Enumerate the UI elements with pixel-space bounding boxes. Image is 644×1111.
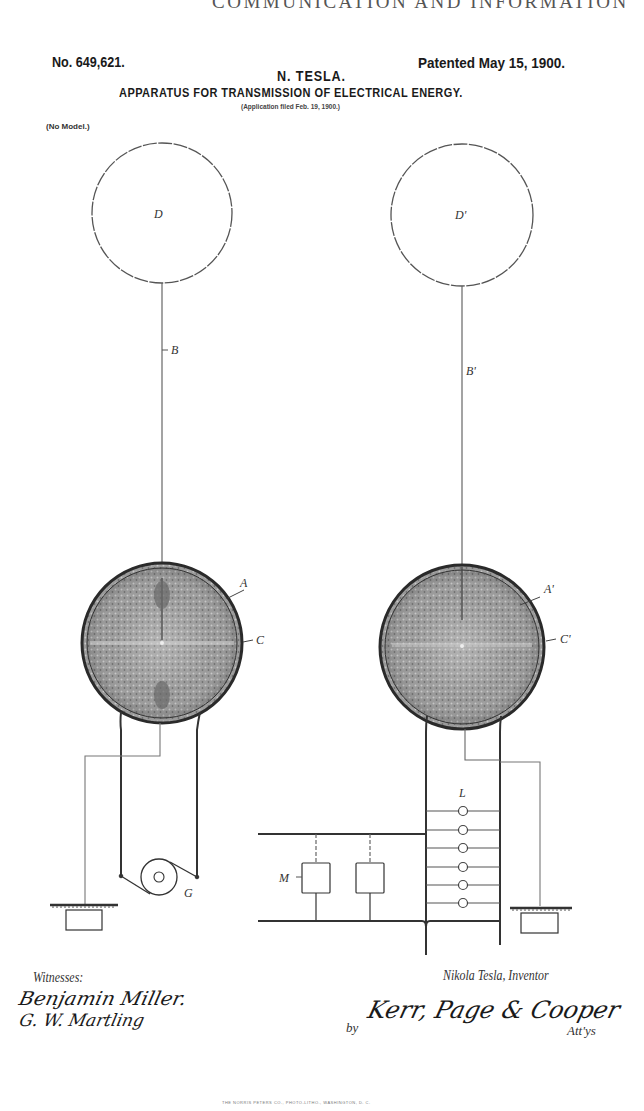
- coil-right: A' C': [380, 565, 571, 729]
- lamp-3: [459, 844, 468, 853]
- terminal-d-right: D': [391, 144, 533, 286]
- terminal-d-left: D: [92, 143, 232, 283]
- label-b: B: [171, 343, 179, 357]
- motors-m: M: [278, 834, 384, 921]
- coil-left: A C: [82, 563, 265, 723]
- mast-b-left: B: [162, 283, 179, 565]
- witness-signature-2: G. W. Martling: [18, 1010, 147, 1030]
- label-c-prime: C': [560, 632, 571, 646]
- label-l: L: [458, 786, 466, 800]
- ground-plate-right: [510, 908, 572, 933]
- label-c: C: [256, 633, 265, 647]
- witness-signature-1: Benjamin Miller.: [17, 987, 189, 1009]
- lamp-bank-l: L: [426, 786, 500, 908]
- ground-plate-left: [50, 905, 118, 930]
- inventor-signature: Nikola Tesla, Inventor: [443, 968, 549, 984]
- lamp-1: [459, 807, 468, 816]
- patent-drawing: D D' B B' A C A' C': [0, 0, 644, 1111]
- label-m: M: [278, 871, 290, 885]
- receiver-circuit: L: [258, 716, 572, 955]
- label-a: A: [239, 576, 248, 590]
- attorneys-suffix: Att'ys: [567, 1023, 596, 1039]
- lamp-6: [459, 899, 468, 908]
- label-g: G: [184, 886, 193, 900]
- by-label: by: [346, 1020, 358, 1036]
- attorneys-signature: Kerr, Page & Cooper: [365, 996, 623, 1024]
- mast-b-right: B': [462, 286, 476, 565]
- label-d-prime: D': [454, 208, 467, 222]
- label-d: D: [153, 207, 163, 221]
- transmitter-circuit: G: [50, 712, 200, 930]
- lamp-4: [459, 863, 468, 872]
- label-b-prime: B': [466, 364, 476, 378]
- motor-1: [302, 863, 330, 893]
- label-a-prime: A': [543, 582, 554, 596]
- motor-2: [356, 863, 384, 893]
- printer-imprint: THE NORRIS PETERS CO., PHOTO-LITHO., WAS…: [222, 1100, 371, 1105]
- witnesses-label: Witnesses:: [33, 970, 83, 986]
- lamp-2: [459, 826, 468, 835]
- lamp-5: [459, 881, 468, 890]
